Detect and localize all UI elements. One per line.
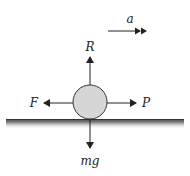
ground-surface [6, 119, 184, 129]
acceleration-arrow [108, 28, 147, 35]
weight-label: mg [80, 154, 99, 168]
ball [73, 85, 107, 119]
friction-label: F [29, 96, 39, 110]
normal-force-label: R [84, 40, 94, 54]
free-body-diagram: a R F P mg [0, 0, 190, 176]
applied-force-label: P [141, 96, 151, 110]
acceleration-label: a [126, 12, 133, 26]
